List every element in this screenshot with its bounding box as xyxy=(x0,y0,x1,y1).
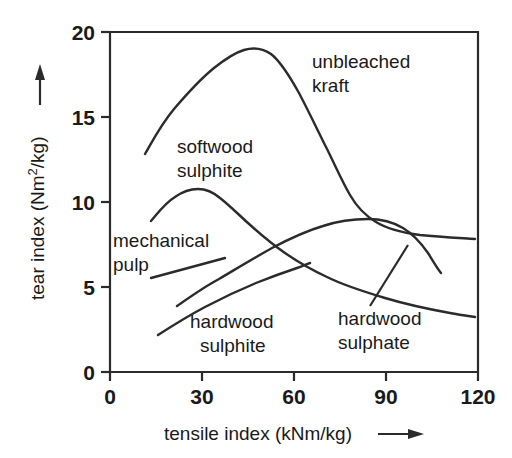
annotation-hardwood-sulphite: hardwood sulphite xyxy=(190,311,273,356)
figure-container: 20 15 10 5 0 0 30 60 90 120 tear index (… xyxy=(0,0,512,458)
annotation-mechanical-pulp: mechanical pulp xyxy=(113,230,209,275)
curve-softwood-sulphite xyxy=(151,189,475,317)
annotation-softwood-sulphite: softwood sulphite xyxy=(177,136,253,181)
annotation-mechanical-pulp-line-2: pulp xyxy=(113,254,149,275)
y-axis-title: tear index (Nm2/kg) xyxy=(25,136,48,300)
svg-text:tear index (Nm2/kg): tear index (Nm2/kg) xyxy=(25,136,48,300)
tear-vs-tensile-chart: 20 15 10 5 0 0 30 60 90 120 tear index (… xyxy=(0,0,512,458)
y-axis-title-suffix: /kg) xyxy=(27,136,48,168)
y-tick-label-20: 20 xyxy=(72,21,95,44)
x-axis-ticks xyxy=(110,372,478,381)
annotation-hardwood-sulphite-line-2: sulphite xyxy=(200,335,266,356)
y-tick-label-10: 10 xyxy=(72,191,95,214)
x-tick-label-90: 90 xyxy=(374,385,397,408)
x-tick-label-0: 0 xyxy=(104,385,116,408)
y-axis-title-prefix: tear index (Nm xyxy=(27,175,48,300)
annotation-hardwood-sulphite-line-1: hardwood xyxy=(190,311,273,332)
y-tick-label-5: 5 xyxy=(83,276,95,299)
x-tick-label-30: 30 xyxy=(190,385,213,408)
x-axis-arrow-icon xyxy=(378,429,424,439)
annotation-unbleached-kraft-line-1: unbleached xyxy=(312,51,410,72)
annotation-hardwood-sulphate: hardwood sulphate xyxy=(338,308,421,353)
y-tick-label-15: 15 xyxy=(72,106,96,129)
annotation-softwood-sulphite-line-1: softwood xyxy=(177,136,253,157)
annotation-mechanical-pulp-line-1: mechanical xyxy=(113,230,209,251)
y-tick-label-0: 0 xyxy=(83,361,95,384)
x-axis-title: tensile index (kNm/kg) xyxy=(164,423,352,444)
y-axis-title-superscript: 2 xyxy=(25,168,40,175)
hardwood-sulphate-leader-line xyxy=(370,245,408,306)
annotation-softwood-sulphite-line-2: sulphite xyxy=(177,160,243,181)
annotation-unbleached-kraft-line-2: kraft xyxy=(312,75,350,96)
curve-mechanical-pulp xyxy=(151,258,225,278)
x-tick-label-120: 120 xyxy=(460,385,495,408)
y-axis-ticks xyxy=(101,32,110,372)
y-axis-arrow-icon xyxy=(35,64,45,105)
annotation-unbleached-kraft: unbleached kraft xyxy=(312,51,410,96)
x-tick-label-60: 60 xyxy=(282,385,305,408)
annotation-hardwood-sulphate-line-1: hardwood xyxy=(338,308,421,329)
annotation-hardwood-sulphate-line-2: sulphate xyxy=(338,332,410,353)
